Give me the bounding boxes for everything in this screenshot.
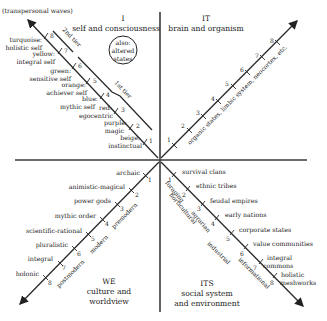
svg-text:altered: altered	[112, 47, 135, 54]
svg-text:sensitive self: sensitive self	[30, 75, 72, 82]
quadrant-ur-title: IT brain and organism	[168, 14, 243, 33]
era-premodern: premodern	[110, 201, 140, 231]
svg-text:holonic: holonic	[16, 270, 40, 277]
svg-text:magic: magic	[105, 127, 125, 135]
quadrant-lr-title: ITS social system and environment	[174, 279, 240, 308]
svg-text:also:: also:	[116, 39, 131, 46]
svg-text:2: 2	[136, 122, 140, 129]
svg-text:ITS: ITS	[200, 279, 213, 288]
lr-level-2: 2 ethnic tribes	[182, 182, 236, 198]
svg-text:5: 5	[225, 80, 229, 87]
ur-levels: 1 2 3 4 5 6 7 8	[167, 37, 280, 148]
svg-text:7: 7	[62, 264, 66, 271]
ll-level-2: 2 animistic-magical	[69, 183, 139, 198]
svg-text:turquoise:: turquoise:	[9, 36, 42, 44]
svg-text:8: 8	[50, 32, 54, 39]
svg-text:states: states	[113, 55, 132, 62]
svg-text:integral: integral	[267, 254, 292, 262]
transpersonal-waves-label: (transpersonal waves)	[2, 7, 73, 15]
svg-text:4: 4	[106, 91, 110, 98]
svg-text:holistic: holistic	[281, 271, 305, 278]
ur-axis-label: organic states, limbic system, neocortex…	[186, 43, 289, 146]
svg-text:yellow:: yellow:	[31, 50, 55, 58]
mode-industrial: industrial	[206, 240, 232, 266]
ll-level-7: 7 integral	[28, 255, 66, 271]
svg-text:instinctual: instinctual	[108, 142, 142, 149]
svg-text:4: 4	[211, 95, 215, 102]
svg-text:red:: red:	[99, 104, 112, 111]
svg-text:1: 1	[148, 176, 152, 183]
svg-text:blue:: blue:	[82, 95, 98, 102]
svg-text:WE: WE	[102, 277, 115, 286]
svg-text:mythic order: mythic order	[55, 212, 97, 220]
lr-level-7: 7 integral commons	[253, 254, 293, 271]
svg-text:value communities: value communities	[252, 240, 313, 247]
svg-text:self and consciousness: self and consciousness	[72, 24, 160, 33]
svg-text:corporate states: corporate states	[239, 226, 291, 234]
svg-text:scientific-rational: scientific-rational	[26, 227, 82, 234]
svg-text:feudal empires: feudal empires	[210, 197, 258, 205]
svg-text:integral: integral	[28, 255, 53, 263]
svg-text:6: 6	[77, 250, 81, 257]
lr-level-8: 8 holistic meshworks	[270, 271, 316, 286]
ll-level-1: 1 archaic	[116, 169, 151, 183]
ll-level-5: 5 scientific-rational	[26, 227, 95, 242]
svg-text:culture and: culture and	[87, 287, 131, 296]
ul-level-8: 8 turquoise: holistic self	[6, 32, 54, 51]
ll-level-8: 8 holonic	[16, 270, 52, 286]
svg-text:power gods: power gods	[74, 197, 111, 205]
svg-text:2: 2	[181, 122, 185, 129]
svg-text:integral self: integral self	[17, 58, 56, 66]
svg-text:5: 5	[93, 77, 97, 84]
ll-level-4: 4 mythic order	[55, 212, 109, 227]
svg-text:pluralistic: pluralistic	[36, 241, 69, 249]
svg-text:archaic: archaic	[116, 169, 140, 176]
svg-text:early nations: early nations	[225, 211, 267, 219]
svg-text:3: 3	[121, 106, 125, 113]
quadrant-ll-title: WE culture and worldview	[87, 277, 131, 306]
svg-text:worldview: worldview	[89, 297, 129, 306]
svg-text:6: 6	[240, 66, 244, 73]
lr-level-1: 1 survival clans	[168, 168, 226, 183]
svg-text:achiever self: achiever self	[46, 89, 87, 96]
svg-text:purple:: purple:	[104, 119, 127, 127]
svg-text:orange:: orange:	[62, 81, 87, 89]
svg-text:6: 6	[78, 62, 82, 69]
ul-level-1: 1 beige: instinctual	[108, 134, 153, 149]
svg-text:animistic-magical: animistic-magical	[69, 183, 125, 191]
aqal-diagram: I self and consciousness IT brain and or…	[0, 0, 327, 321]
svg-text:3: 3	[196, 109, 200, 116]
ul-level-6: 6 green: sensitive self	[30, 62, 82, 82]
svg-text:mythic self: mythic self	[60, 103, 96, 111]
svg-text:7: 7	[64, 47, 68, 54]
lr-level-4: 4 early nations	[211, 211, 267, 227]
quadrant-ul-title: I self and consciousness	[72, 14, 160, 33]
svg-text:8: 8	[48, 279, 52, 286]
svg-text:holistic self: holistic self	[6, 44, 43, 51]
svg-text:egocentric: egocentric	[79, 112, 113, 120]
svg-text:I: I	[122, 14, 125, 23]
svg-text:4: 4	[105, 220, 109, 227]
svg-text:IT: IT	[202, 14, 210, 23]
svg-text:beige:: beige:	[120, 134, 140, 142]
svg-text:8: 8	[270, 37, 274, 44]
svg-text:1st tier: 1st tier	[113, 79, 133, 100]
svg-text:2: 2	[135, 191, 139, 198]
svg-text:4: 4	[211, 220, 215, 227]
svg-text:ethnic tribes: ethnic tribes	[196, 182, 236, 189]
svg-text:survival clans: survival clans	[182, 168, 226, 175]
svg-text:1: 1	[149, 137, 153, 144]
svg-text:and environment: and environment	[174, 299, 240, 308]
altered-states-badge: also: altered states	[109, 36, 137, 64]
svg-text:5: 5	[91, 235, 95, 242]
svg-text:brain and organism: brain and organism	[168, 24, 243, 33]
svg-text:commons: commons	[263, 262, 293, 269]
svg-text:5: 5	[226, 235, 230, 242]
svg-text:social system: social system	[181, 289, 232, 298]
lr-level-3: 3 feudal empires	[197, 197, 258, 212]
svg-text:1: 1	[167, 136, 171, 143]
svg-text:7: 7	[255, 52, 259, 59]
svg-text:meshworks: meshworks	[280, 279, 316, 286]
svg-text:green:: green:	[50, 67, 71, 75]
